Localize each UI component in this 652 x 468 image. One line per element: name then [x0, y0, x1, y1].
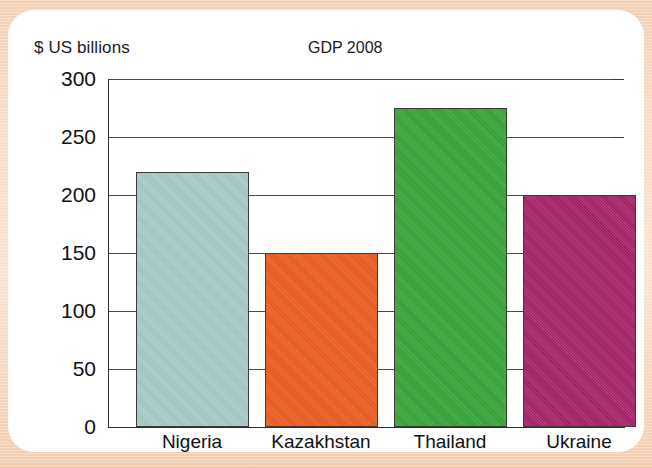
x-axis-line: [108, 427, 624, 428]
y-tick-label: 150: [16, 241, 96, 265]
y-tick-label: 50: [16, 357, 96, 381]
bar-kazakhstan[interactable]: [265, 253, 378, 427]
y-tick-label: 200: [16, 183, 96, 207]
right-tick-300: [613, 79, 624, 80]
right-tick-250: [613, 137, 624, 138]
x-tick-label-nigeria: Nigeria: [122, 431, 262, 453]
gridline-300: [108, 79, 613, 80]
gridline-250: [108, 137, 613, 138]
y-tick-label: 100: [16, 299, 96, 323]
x-axis-tick-labels: Nigeria Kazakhstan Thailand Ukraine: [108, 431, 624, 465]
x-tick-label-kazakhstan: Kazakhstan: [251, 431, 391, 453]
chart-card: $ US billions GDP 2008 300 250 200 150 1…: [8, 10, 644, 452]
y-axis-tick-labels: 300 250 200 150 100 50 0: [12, 79, 96, 427]
bar-nigeria[interactable]: [136, 172, 249, 427]
y-tick-label: 250: [16, 125, 96, 149]
chart-title: GDP 2008: [308, 39, 382, 57]
bar-thailand[interactable]: [394, 108, 507, 427]
x-tick-label-thailand: Thailand: [380, 431, 520, 453]
y-tick-label: 300: [16, 67, 96, 91]
plot-area: [108, 79, 613, 427]
x-tick-label-ukraine: Ukraine: [509, 431, 649, 453]
y-axis-title: $ US billions: [34, 38, 130, 58]
y-tick-label: 0: [16, 415, 96, 439]
page-background: $ US billions GDP 2008 300 250 200 150 1…: [0, 0, 652, 468]
bar-ukraine[interactable]: [523, 195, 636, 427]
y-axis-line: [108, 79, 109, 427]
